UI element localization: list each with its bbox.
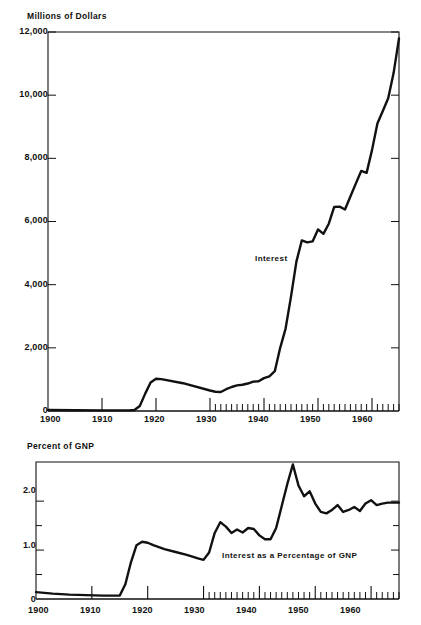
axis-frame: [36, 462, 399, 599]
plot-area-interest-percent-gnp: [0, 0, 421, 625]
data-series-line-0: [36, 464, 399, 595]
